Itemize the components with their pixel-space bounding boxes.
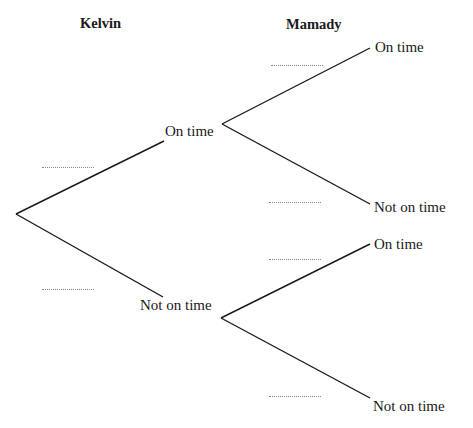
- branch-mamady-on-time-upper: [222, 48, 370, 124]
- header-mamady: Mamady: [286, 17, 342, 32]
- label-kelvin-on-time: On time: [165, 124, 214, 139]
- blank-prob-mamady-not-on-time-lower[interactable]: [269, 396, 321, 397]
- label-mamady-not-on-time-lower: Not on time: [373, 399, 445, 414]
- blank-prob-kelvin-not-on-time[interactable]: [42, 289, 94, 290]
- label-mamady-on-time-upper: On time: [375, 40, 424, 55]
- branch-mamady-not-on-time-lower: [221, 318, 370, 398]
- blank-prob-mamady-not-on-time-upper[interactable]: [269, 202, 321, 203]
- header-kelvin: Kelvin: [80, 16, 121, 31]
- blank-prob-mamady-on-time-upper[interactable]: [271, 65, 323, 66]
- blank-prob-mamady-on-time-lower[interactable]: [269, 259, 321, 260]
- branch-kelvin-not-on-time: [16, 214, 163, 297]
- label-mamady-not-on-time-upper: Not on time: [374, 200, 446, 215]
- label-kelvin-not-on-time: Not on time: [140, 298, 212, 313]
- label-mamady-on-time-lower: On time: [374, 237, 423, 252]
- branch-mamady-not-on-time-upper: [222, 124, 370, 204]
- branch-kelvin-on-time: [16, 141, 164, 214]
- branch-mamady-on-time-lower: [221, 244, 370, 318]
- blank-prob-kelvin-on-time[interactable]: [42, 167, 94, 168]
